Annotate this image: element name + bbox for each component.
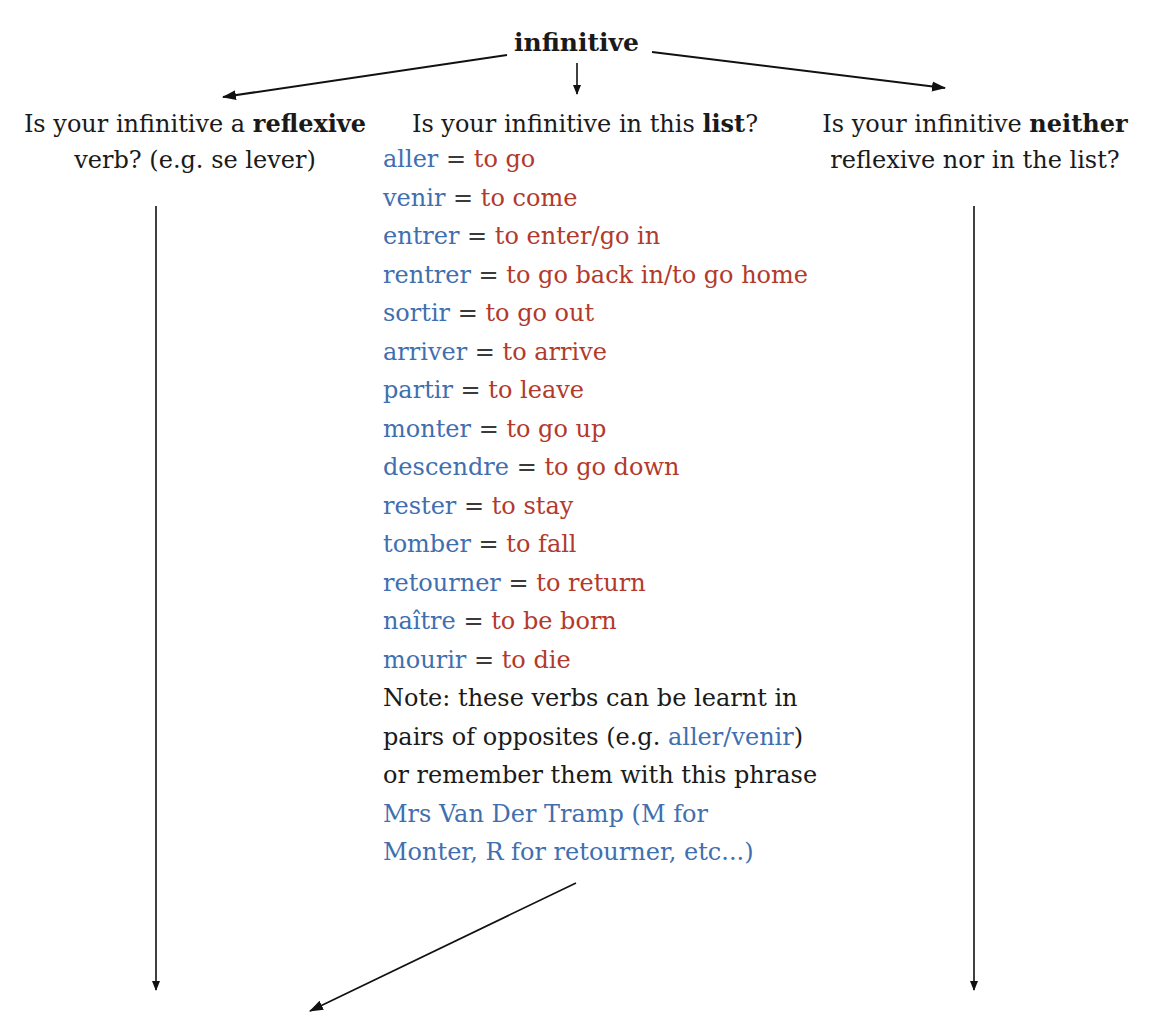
verb-french: aller [383,145,438,173]
verb-french: entrer [383,222,459,250]
question-keyword: reflexive [253,109,366,138]
verb-row: entrer = to enter/go in [383,217,823,256]
verb-english: to go down [544,453,679,481]
arrow-root-to-neither [652,52,945,88]
verb-french: venir [383,184,445,212]
verb-french: sortir [383,299,450,327]
equals-sign: = [479,415,499,443]
verb-english: to arrive [503,338,607,366]
note-line-3: or remember them with this phrase [383,756,823,795]
equals-sign: = [474,646,494,674]
verb-row: partir = to leave [383,371,823,410]
verb-row: tomber = to fall [383,525,823,564]
mnemonic-line-1: Mrs Van Der Tramp (M for [383,795,823,834]
verb-english: to fall [506,530,576,558]
equals-sign: = [461,376,481,404]
branch-neither-question: Is your infinitive neither reflexive nor… [800,106,1150,178]
verb-row: descendre = to go down [383,448,823,487]
question-text-line2: reflexive nor in the list? [800,142,1150,178]
verb-row: rentrer = to go back in/to go home [383,256,823,295]
equals-sign: = [446,145,466,173]
equals-sign: = [467,222,487,250]
root-label: infinitive [508,28,645,57]
question-text: Is your infinitive in this [412,110,702,138]
verb-french: monter [383,415,471,443]
verb-english: to return [536,569,645,597]
verb-french: rester [383,492,456,520]
verb-english: to leave [488,376,584,404]
verb-row: monter = to go up [383,410,823,449]
arrow-root-to-reflexive [223,55,507,97]
branch-reflexive-question: Is your infinitive a reflexive verb? (e.… [20,106,370,178]
verb-english: to go [474,145,536,173]
verb-row: rester = to stay [383,487,823,526]
verb-row: retourner = to return [383,564,823,603]
question-keyword: neither [1029,109,1127,138]
verb-french: mourir [383,646,466,674]
verb-english: to go back in/to go home [506,261,808,289]
verb-french: retourner [383,569,501,597]
verb-french: naître [383,607,456,635]
verb-row: arriver = to arrive [383,333,823,372]
verb-row: aller = to go [383,140,823,179]
verb-list: aller = to go venir = to come entrer = t… [383,140,823,872]
equals-sign: = [517,453,537,481]
question-keyword: list [702,109,745,138]
question-text: Is your infinitive [822,110,1029,138]
verb-french: partir [383,376,453,404]
equals-sign: = [464,492,484,520]
verb-row: sortir = to go out [383,294,823,333]
arrow-list-down-left [310,883,576,1011]
verb-english: to be born [491,607,617,635]
equals-sign: = [475,338,495,366]
verb-english: to stay [492,492,574,520]
mnemonic-line-2: Monter, R for retourner, etc...) [383,833,823,872]
equals-sign: = [463,607,483,635]
note-line-2: pairs of opposites (e.g. aller/venir) [383,718,823,757]
branch-list-question: Is your infinitive in this list? [400,106,770,142]
equals-sign: = [479,261,499,289]
equals-sign: = [508,569,528,597]
root-node-infinitive: infinitive [0,28,1153,57]
verb-french: arriver [383,338,467,366]
question-text: Is your infinitive a [24,110,253,138]
verb-english: to die [502,646,571,674]
verb-english: to enter/go in [495,222,660,250]
note-text: pairs of opposites (e.g. [383,723,668,751]
note-line-1: Note: these verbs can be learnt in [383,679,823,718]
verb-english: to come [481,184,578,212]
verb-french: descendre [383,453,509,481]
verb-french: tomber [383,530,471,558]
note-example-pair: aller/venir [668,723,794,751]
note-text: ) [794,723,803,751]
question-mark: ? [745,110,758,138]
verb-row: mourir = to die [383,641,823,680]
equals-sign: = [453,184,473,212]
verb-row: naître = to be born [383,602,823,641]
verb-english: to go out [485,299,594,327]
equals-sign: = [479,530,499,558]
equals-sign: = [458,299,478,327]
verb-french: rentrer [383,261,471,289]
question-text-line2: verb? (e.g. se lever) [20,142,370,178]
verb-english: to go up [506,415,606,443]
verb-row: venir = to come [383,179,823,218]
